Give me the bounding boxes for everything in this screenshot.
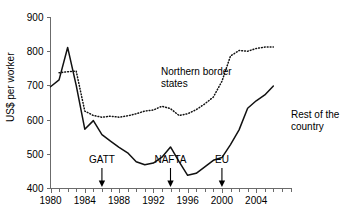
line-chart: 400500600700800900 US$ per worker 198019… <box>0 0 361 224</box>
x-tick-label: 1996 <box>177 195 200 206</box>
annotation-label-gatt: GATT <box>89 154 115 165</box>
x-tick-label: 1984 <box>74 195 97 206</box>
x-axis-tick-labels: 1980198419881992199620002004 <box>39 195 267 206</box>
y-tick-label: 800 <box>27 46 44 57</box>
x-tick-label: 2000 <box>211 195 234 206</box>
event-annotations: GATTNAFTAEU <box>89 154 229 187</box>
y-tick-label: 400 <box>27 183 44 194</box>
chart-container: 400500600700800900 US$ per worker 198019… <box>0 0 361 224</box>
annotation-label-nafta: NAFTA <box>154 154 186 165</box>
x-tick-label: 1992 <box>142 195 165 206</box>
y-tick-label: 900 <box>27 12 44 23</box>
y-axis-tick-labels: 400500600700800900 <box>27 12 44 194</box>
annotation-label-eu: EU <box>215 154 229 165</box>
y-tick-label: 500 <box>27 149 44 160</box>
annotation-arrowhead-eu <box>219 181 225 188</box>
annotation-gatt: GATT <box>89 154 115 187</box>
series-labels: Northern border states Rest of the count… <box>161 66 340 132</box>
x-tick-label: 1988 <box>108 195 131 206</box>
label-northern-border-states-line2: states <box>161 78 188 89</box>
y-axis: 400500600700800900 US$ per worker <box>5 12 51 194</box>
annotation-eu: EU <box>215 154 229 187</box>
x-tick-label: 1980 <box>39 195 62 206</box>
label-northern-border-states-line1: Northern border <box>161 66 232 77</box>
y-axis-title: US$ per worker <box>5 52 16 122</box>
label-rest-of-the-country-line2: country <box>291 121 324 132</box>
annotation-arrowhead-nafta <box>167 181 173 188</box>
label-rest-of-the-country-line1: Rest of the <box>291 109 340 120</box>
y-tick-label: 600 <box>27 115 44 126</box>
x-axis: 1980198419881992199620002004 <box>39 188 291 206</box>
x-tick-label: 2004 <box>245 195 268 206</box>
y-tick-label: 700 <box>27 80 44 91</box>
annotation-nafta: NAFTA <box>154 154 186 187</box>
annotation-arrowhead-gatt <box>99 181 105 188</box>
y-axis-ticks <box>47 18 51 189</box>
